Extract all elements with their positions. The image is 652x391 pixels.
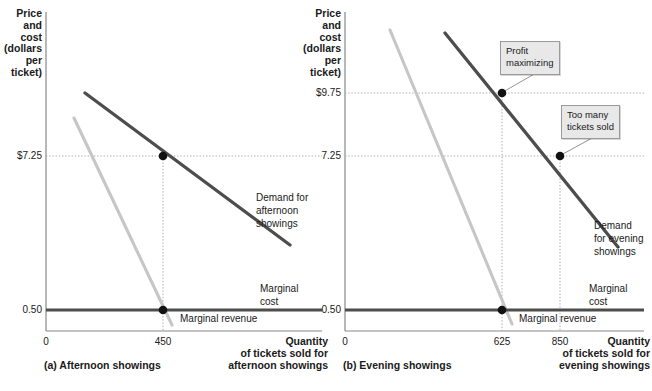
panel-a-y-tick-050: 0.50 xyxy=(0,304,42,315)
economics-figure-two-panel: Price and cost (dollars per ticket) $7.2… xyxy=(0,0,652,391)
panel-b-y-tick-050: 0.50 xyxy=(295,304,341,315)
panel-b-marginal-revenue-label: Marginal revenue xyxy=(519,313,596,326)
panel-b-demand-curve-label: Demand for evening showings xyxy=(594,220,643,258)
panel-a-x-tick-450: 450 xyxy=(148,336,178,347)
panel-a-y-axis-label: Price and cost (dollars per ticket) xyxy=(0,8,42,79)
panel-a-marginal-revenue-curve xyxy=(74,118,172,325)
panel-b-caption: (b) Evening showings xyxy=(343,360,452,372)
panel-b-y-axis-label: Price and cost (dollars per ticket) xyxy=(293,8,341,79)
panel-a-x-tick-0: 0 xyxy=(32,336,60,347)
callout-too-many-tickets-sold: Too many tickets sold xyxy=(561,105,620,139)
panel-b-marginal-cost-label: Marginal cost xyxy=(589,283,627,309)
panel-b-too-many-leader xyxy=(561,137,594,155)
panel-b-mr-mc-intersection-dot xyxy=(498,306,507,315)
callout-profit-maximizing: Profit maximizing xyxy=(500,41,560,75)
panel-b-y-tick-725: 7.25 xyxy=(295,150,341,161)
panel-a-caption: (a) Afternoon showings xyxy=(44,360,161,372)
panel-a-demand-curve-label: Demand for afternoon showings xyxy=(256,192,308,230)
panel-a-marginal-revenue-label: Marginal revenue xyxy=(180,313,257,326)
panel-b-x-tick-0: 0 xyxy=(331,336,359,347)
panel-b-marginal-revenue-curve xyxy=(390,30,512,324)
panel-b-x-axis-label: Quantity of tickets sold for evening sho… xyxy=(505,336,650,371)
panel-a-equilibrium-price-dot xyxy=(159,152,168,161)
panel-b-profit-maximizing-dot xyxy=(498,89,507,98)
panel-b-too-many-tickets-dot xyxy=(556,152,565,161)
panel-a-marginal-cost-label: Marginal cost xyxy=(260,283,298,309)
panel-a-y-tick-725: $7.25 xyxy=(0,150,42,161)
panel-b-y-tick-975: $9.75 xyxy=(295,87,341,98)
panel-b-profit-max-leader xyxy=(503,73,536,92)
panel-a-x-axis-label: Quantity of tickets sold for afternoon s… xyxy=(183,336,328,371)
panel-a-equilibrium-quantity-dot xyxy=(159,306,168,315)
